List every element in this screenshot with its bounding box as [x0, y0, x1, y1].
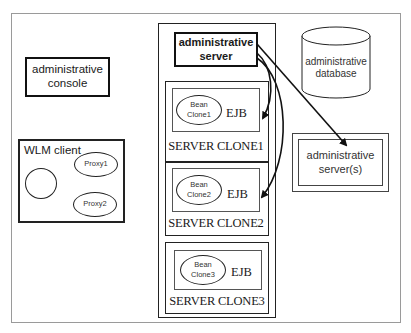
server-clone3-ejb-container: Bean Clone3 EJB	[174, 250, 262, 290]
bean-clone3-line2: Clone3	[191, 270, 215, 280]
ejb-label-2: EJB	[227, 187, 248, 202]
proxy2-label: Proxy2	[83, 199, 106, 209]
server-clone1-label: SERVER CLONE1	[166, 139, 266, 154]
bean-clone1-ellipse: Bean Clone1	[176, 95, 222, 125]
bean-clone3-ellipse: Bean Clone3	[180, 255, 226, 285]
admin-database-line2: database	[315, 68, 356, 80]
admin-console-line1: administrative	[32, 63, 103, 77]
server-clone3-label: SERVER CLONE3	[166, 294, 268, 309]
server-clone3-box: Bean Clone3 EJB SERVER CLONE3	[165, 242, 269, 314]
server-clone2-box: Bean Clone2 EJB SERVER CLONE2	[165, 162, 269, 236]
bean-clone1-line2: Clone1	[187, 110, 211, 120]
admin-console-box: administrative console	[25, 57, 110, 97]
admin-server-line2: server	[199, 50, 232, 63]
admin-console-line2: console	[48, 77, 88, 91]
wlm-client-box: WLM client Proxy1 Proxy2	[18, 139, 125, 223]
bean-clone2-line1: Bean	[190, 180, 208, 190]
admin-servers-remote-line2: server(s)	[319, 163, 362, 176]
bean-clone3-line1: Bean	[194, 260, 212, 270]
ejb-label-1: EJB	[226, 106, 247, 121]
admin-servers-remote-line1: administrative	[307, 149, 375, 162]
admin-server-line1: administrative	[179, 36, 254, 49]
client-circle	[25, 168, 57, 199]
ejb-label-3: EJB	[231, 265, 252, 280]
server-clone1-box: Bean Clone1 EJB SERVER CLONE1	[165, 81, 269, 162]
admin-database-label: administrative database	[302, 52, 370, 84]
bean-clone2-ellipse: Bean Clone2	[176, 175, 222, 205]
bean-clone2-line2: Clone2	[187, 190, 211, 200]
admin-server-box: administrative server	[174, 32, 258, 67]
admin-servers-remote-inner: administrative server(s)	[298, 139, 383, 186]
admin-servers-remote-box: administrative server(s)	[292, 133, 389, 192]
server-clone2-label: SERVER CLONE2	[166, 216, 266, 231]
proxy1-ellipse: Proxy1	[74, 152, 118, 177]
admin-database-line1: administrative	[305, 56, 367, 68]
proxy2-ellipse: Proxy2	[73, 192, 117, 217]
proxy1-label: Proxy1	[84, 159, 107, 169]
bean-clone1-line1: Bean	[190, 100, 208, 110]
server-clone1-ejb-container: Bean Clone1 EJB	[172, 88, 260, 132]
wlm-client-title: WLM client	[24, 144, 81, 156]
server-clone2-ejb-container: Bean Clone2 EJB	[172, 168, 260, 212]
